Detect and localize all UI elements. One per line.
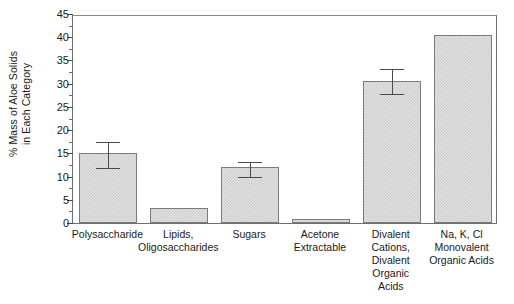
y-tick-label: 5	[63, 194, 69, 205]
y-tick-mark-minor	[69, 188, 73, 189]
y-tick-mark-minor	[69, 72, 73, 73]
bar	[434, 35, 492, 223]
y-tick-label: 10	[57, 171, 69, 182]
y-tick-mark-minor	[69, 142, 73, 143]
y-tick-label: 45	[57, 9, 69, 20]
y-axis-title-text: % Mass of Aloe Solids in Each Category	[7, 51, 33, 157]
bars-layer	[73, 16, 496, 223]
error-bar-cap-lower	[96, 168, 120, 169]
error-bar-line	[108, 143, 109, 169]
y-tick-label: 30	[57, 78, 69, 89]
x-axis-category-label: Na, K, Cl Monovalent Organic Acids	[420, 228, 503, 267]
bar	[292, 219, 350, 223]
y-tick-label: 40	[57, 32, 69, 43]
bar-chart-figure: % Mass of Aloe Solids in Each Category 0…	[0, 0, 514, 304]
y-tick-label: 20	[57, 125, 69, 136]
error-bar-cap-upper	[380, 69, 404, 70]
error-bar-cap-lower	[380, 94, 404, 95]
error-bar-cap-upper	[238, 162, 262, 163]
y-tick-mark-minor	[69, 165, 73, 166]
error-bar-line	[250, 163, 251, 178]
y-axis-title: % Mass of Aloe Solids in Each Category	[0, 2, 40, 206]
error-bar-cap-lower	[238, 177, 262, 178]
y-tick-label: 15	[57, 148, 69, 159]
y-tick-label: 35	[57, 55, 69, 66]
plot-area: 051015202530354045	[72, 15, 497, 224]
bar	[363, 81, 421, 223]
y-tick-mark-minor	[69, 119, 73, 120]
y-tick-mark-minor	[69, 95, 73, 96]
y-tick-label: 0	[63, 218, 69, 229]
bar	[150, 208, 208, 223]
error-bar-cap-upper	[96, 142, 120, 143]
error-bar-line	[392, 70, 393, 95]
y-tick-label: 25	[57, 101, 69, 112]
y-tick-mark-minor	[69, 211, 73, 212]
y-tick-mark-minor	[69, 26, 73, 27]
y-tick-mark-minor	[69, 49, 73, 50]
